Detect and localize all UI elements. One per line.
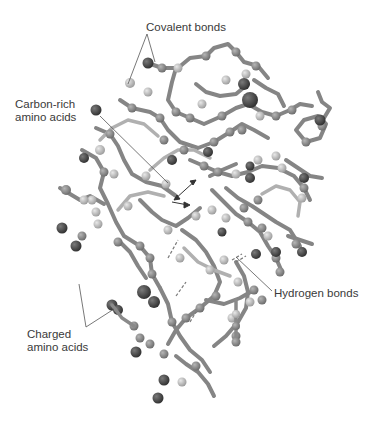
label-carbon-rich-line2: amino acids (15, 111, 76, 124)
atoms-light (80, 64, 307, 387)
label-covalent-bonds: Covalent bonds (146, 21, 226, 34)
label-carbon-rich-line1: Carbon-rich (15, 98, 75, 111)
protein-structure-graphic (0, 0, 370, 426)
protein-diagram: Covalent bonds Carbon-rich amino acids H… (0, 0, 370, 426)
label-charged-line2: amino acids (27, 341, 88, 354)
label-charged-line1: Charged (27, 328, 71, 341)
leader-lines (79, 34, 272, 327)
atoms-mid (61, 48, 327, 371)
label-hydrogen-bonds: Hydrogen bonds (274, 287, 358, 300)
